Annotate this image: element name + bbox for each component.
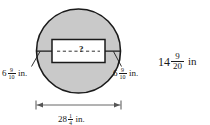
answer-label: 14 9 20 in: [158, 52, 197, 71]
diameter-fraction: 1 4: [68, 113, 73, 125]
right-segment-denominator: 10: [119, 73, 127, 80]
diameter-left-arrowhead: [37, 103, 43, 108]
answer-fraction: 9 20: [171, 52, 184, 71]
diameter-label: 28 1 4 in.: [58, 109, 85, 125]
diameter-unit: in.: [76, 115, 85, 124]
right-segment-label: 6 9 10 in.: [113, 63, 138, 80]
diameter-denominator: 4: [68, 119, 73, 125]
answer-denominator: 20: [171, 61, 184, 71]
left-segment-label: 6 9 10 in.: [2, 63, 27, 80]
right-segment-whole: 6: [113, 69, 118, 78]
diameter-right-arrowhead: [114, 103, 120, 108]
unknown-value-marker: ?: [79, 45, 84, 54]
answer-whole: 14: [158, 56, 170, 68]
left-segment-fraction: 9 10: [8, 67, 16, 80]
left-segment-denominator: 10: [8, 73, 16, 80]
right-segment-unit: in.: [129, 69, 138, 78]
answer-unit: in: [188, 56, 197, 67]
left-segment-unit: in.: [18, 69, 27, 78]
right-segment-fraction: 9 10: [119, 67, 127, 80]
answer-numerator: 9: [173, 52, 182, 61]
left-segment-whole: 6: [2, 69, 7, 78]
diameter-whole: 28: [58, 115, 67, 124]
